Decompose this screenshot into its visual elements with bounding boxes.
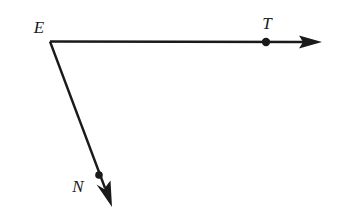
point-t-dot [262, 38, 270, 46]
figure-background [0, 0, 342, 220]
label-vertex-e: E [34, 19, 44, 36]
label-point-n: N [72, 178, 83, 195]
label-point-t: T [262, 15, 271, 32]
geometry-canvas [0, 0, 342, 220]
point-n-dot [95, 171, 103, 179]
geometry-figure: E T N [0, 0, 342, 220]
